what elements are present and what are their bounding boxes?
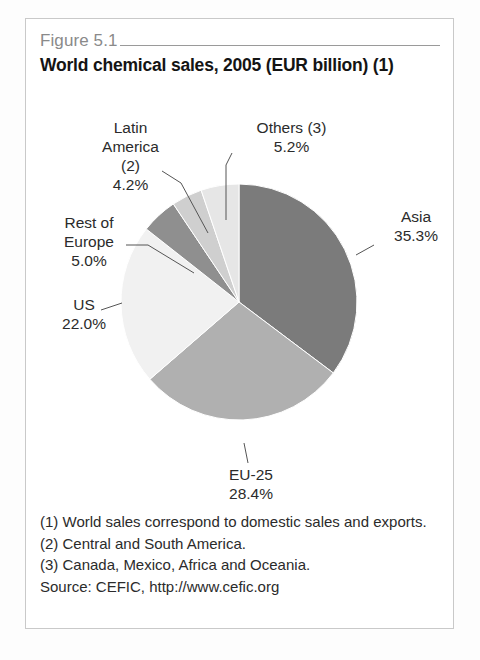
- footnote-1: (1) World sales correspond to domestic s…: [40, 511, 440, 533]
- pie-chart: Latin America (2) 4.2% Rest of Europe 5.…: [26, 65, 453, 515]
- footnote-2: (2) Central and South America.: [40, 533, 440, 555]
- footnote-3: (3) Canada, Mexico, Africa and Oceania.: [40, 554, 440, 576]
- figure-page: Figure 5.1 World chemical sales, 2005 (E…: [0, 0, 480, 660]
- pie-label-us: US 22.0%: [44, 295, 124, 333]
- pie-label-eu25: EU-25 28.4%: [201, 465, 301, 503]
- figure-number: Figure 5.1: [40, 31, 118, 51]
- figure-header-rule: [120, 45, 440, 46]
- pie-slice-group: [121, 184, 357, 420]
- figure-frame: Figure 5.1 World chemical sales, 2005 (E…: [25, 18, 454, 629]
- pie-label-others: Others (3) 5.2%: [234, 118, 349, 156]
- leader-line-eu25: [244, 443, 248, 463]
- figure-source: Source: CEFIC, http://www.cefic.org: [40, 576, 440, 598]
- figure-header: Figure 5.1: [40, 29, 440, 53]
- pie-label-latin-america: Latin America (2) 4.2%: [78, 118, 183, 194]
- figure-footnotes: (1) World sales correspond to domestic s…: [40, 511, 440, 597]
- pie-label-asia: Asia 35.3%: [376, 207, 456, 245]
- pie-label-rest-of-europe: Rest of Europe 5.0%: [34, 213, 144, 270]
- leader-line-asia: [356, 245, 374, 255]
